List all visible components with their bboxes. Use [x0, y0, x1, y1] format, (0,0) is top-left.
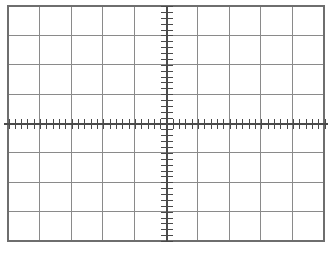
graticule-canvas: [0, 0, 334, 259]
graticule-container: [0, 0, 334, 259]
